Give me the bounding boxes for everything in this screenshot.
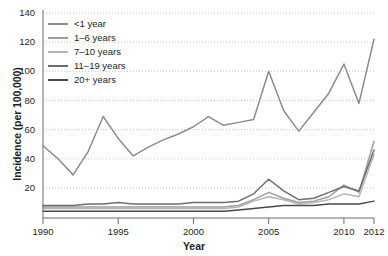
x-tick-label: 2005 <box>249 226 289 237</box>
legend-label: 11–19 years <box>74 61 126 71</box>
x-tick-label: 1990 <box>23 226 63 237</box>
legend-label: 20+ years <box>74 75 116 85</box>
legend-label: 7–10 years <box>74 47 121 57</box>
legend-label: <1 year <box>74 19 106 29</box>
legend-swatch-icon <box>48 65 68 67</box>
y-axis-title: Incidence (per 100,000) <box>11 44 23 204</box>
legend-item-0[interactable]: <1 year <box>48 17 126 31</box>
x-tick-marks <box>43 218 374 224</box>
legend-swatch-icon <box>48 23 68 25</box>
legend-item-1[interactable]: 1–6 years <box>48 31 126 45</box>
x-tick-label: 2012 <box>354 226 388 237</box>
legend-label: 1–6 years <box>74 33 116 43</box>
legend-swatch-icon <box>48 37 68 39</box>
legend: <1 year1–6 years7–10 years11–19 years20+… <box>48 17 126 87</box>
series-line-2 <box>43 154 374 208</box>
series-line-3 <box>43 150 374 205</box>
legend-swatch-icon <box>48 79 68 81</box>
legend-item-3[interactable]: 11–19 years <box>48 59 126 73</box>
series-line-1 <box>43 141 374 207</box>
x-tick-label: 1995 <box>98 226 138 237</box>
legend-item-2[interactable]: 7–10 years <box>48 45 126 59</box>
x-axis-title: Year <box>0 240 388 252</box>
line-chart: <1 year1–6 years7–10 years11–19 years20+… <box>0 0 388 256</box>
legend-item-4[interactable]: 20+ years <box>48 73 126 87</box>
legend-swatch-icon <box>48 51 68 53</box>
x-tick-label: 2000 <box>173 226 213 237</box>
y-tick-label: 140 <box>9 7 35 18</box>
